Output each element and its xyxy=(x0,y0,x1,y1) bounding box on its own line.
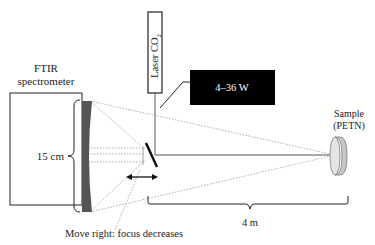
movement-arrow xyxy=(126,174,158,180)
sample-label-line2: (PETN) xyxy=(333,120,365,132)
ftir-label-line2: spectrometer xyxy=(18,75,75,87)
ftir-spectrometer-box xyxy=(10,93,82,205)
sample-label-line1: Sample xyxy=(334,108,365,119)
mirror-size-label: 15 cm xyxy=(37,150,65,162)
ftir-label-line1: FTIR xyxy=(34,62,59,74)
distance-bracket xyxy=(148,196,348,209)
collection-beam-paths xyxy=(88,101,335,230)
distance-label: 4 m xyxy=(242,217,258,228)
power-label: 4–36 W xyxy=(215,82,248,93)
move-note: Move right: focus decreases xyxy=(65,228,183,239)
power-leader-line xyxy=(160,82,190,108)
collecting-mirror xyxy=(82,101,92,212)
experimental-setup-diagram: FTIR spectrometer 15 cm Laser CO2 4–36 W… xyxy=(0,0,375,245)
sample-petn-disc xyxy=(330,137,347,175)
